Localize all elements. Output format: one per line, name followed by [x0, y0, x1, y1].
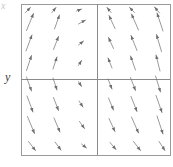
slope-field-plot	[0, 0, 173, 167]
field-arrow	[52, 8, 56, 13]
field-arrow	[132, 117, 139, 133]
field-arrow	[109, 16, 115, 29]
field-arrow	[54, 98, 59, 111]
field-arrow	[155, 7, 160, 13]
field-arrow	[131, 36, 137, 51]
field-arrow	[28, 117, 35, 134]
field-arrow	[77, 9, 82, 11]
field-arrow	[54, 37, 59, 50]
field-arrow	[79, 82, 82, 87]
field-arrow	[26, 8, 31, 13]
field-arrow	[55, 142, 61, 150]
field-arrow	[131, 97, 137, 112]
field-arrow	[108, 79, 112, 89]
figure-root: x y	[0, 0, 173, 167]
field-arrow	[108, 58, 112, 68]
field-arrow	[27, 56, 32, 71]
field-arrow	[55, 15, 60, 29]
field-arrow	[27, 14, 34, 31]
field-arrow	[131, 56, 136, 70]
field-arrow	[29, 142, 36, 151]
field-arrow	[157, 116, 163, 134]
field-arrow	[79, 41, 84, 45]
field-arrow	[54, 118, 60, 132]
field-arrow	[130, 8, 135, 13]
field-arrow	[79, 61, 82, 66]
arrow-field-layer	[26, 7, 166, 151]
field-arrow	[159, 142, 165, 151]
field-arrow	[157, 13, 163, 31]
field-arrow	[132, 14, 139, 30]
field-arrow	[26, 35, 32, 51]
field-arrow	[109, 119, 115, 132]
field-arrow	[109, 98, 114, 110]
field-arrow	[156, 76, 161, 92]
field-arrow	[82, 144, 87, 148]
field-arrow	[80, 122, 85, 129]
field-arrow	[107, 8, 111, 13]
field-arrow	[156, 55, 160, 71]
field-arrow	[156, 96, 162, 113]
field-arrow	[79, 20, 86, 24]
field-arrow	[157, 35, 162, 52]
field-arrow	[134, 142, 141, 151]
field-arrow	[27, 96, 33, 112]
field-arrow	[109, 38, 114, 49]
field-arrow	[79, 101, 83, 107]
field-arrow	[53, 57, 57, 69]
field-arrow	[110, 143, 116, 150]
